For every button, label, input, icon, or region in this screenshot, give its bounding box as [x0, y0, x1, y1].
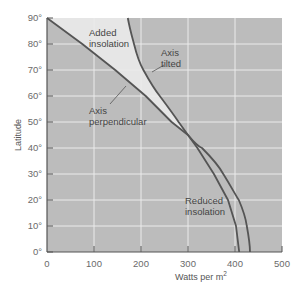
svg-text:400: 400 — [227, 258, 243, 269]
insolation-chart: Added insolation Axis tilted Axis perpen… — [0, 0, 303, 296]
svg-text:500: 500 — [274, 258, 290, 269]
svg-text:200: 200 — [133, 258, 149, 269]
svg-text:90°: 90° — [28, 12, 43, 23]
svg-text:80°: 80° — [28, 38, 43, 49]
svg-text:100: 100 — [86, 258, 102, 269]
svg-text:50°: 50° — [28, 116, 43, 127]
reduced-insolation-label-line1: Reduced — [185, 195, 223, 206]
added-insolation-label-line1: Added — [89, 27, 116, 38]
axis-perpendicular-label-line1: Axis — [89, 105, 107, 116]
added-insolation-label-line2: insolation — [89, 38, 129, 49]
y-axis-label: Latitude — [13, 119, 23, 151]
x-axis-label: Watts per m2 — [175, 270, 227, 282]
axis-tilted-label-line1: Axis — [161, 47, 179, 58]
axis-perpendicular-label-line2: perpendicular — [89, 116, 147, 127]
svg-text:70°: 70° — [28, 64, 43, 75]
svg-text:20°: 20° — [28, 194, 43, 205]
axis-tilted-label-line2: tilted — [161, 58, 181, 69]
svg-text:40°: 40° — [28, 142, 43, 153]
y-tick-labels: 0° 10° 20° 30° 40° 50° 60° 70° 80° 90° — [28, 12, 43, 257]
svg-text:0: 0 — [44, 258, 49, 269]
svg-text:300: 300 — [180, 258, 196, 269]
x-tick-labels: 0 100 200 300 400 500 — [44, 258, 290, 269]
svg-text:10°: 10° — [28, 220, 43, 231]
svg-text:30°: 30° — [28, 168, 43, 179]
svg-text:0°: 0° — [33, 246, 42, 257]
svg-text:60°: 60° — [28, 90, 43, 101]
reduced-insolation-label-line2: insolation — [185, 206, 225, 217]
